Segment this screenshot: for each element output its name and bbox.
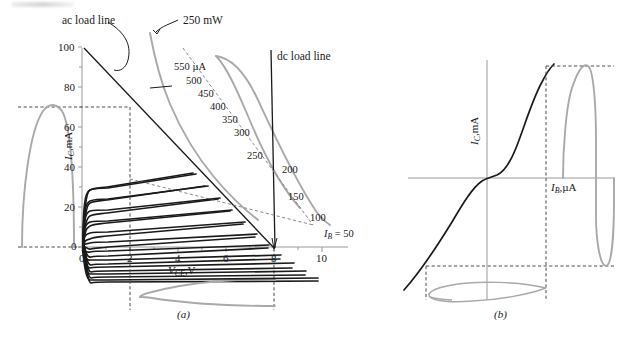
curve-label-250: 250 <box>247 150 263 161</box>
input-waveform-bottom-2 <box>472 288 546 301</box>
panel-a-ytick-0: 0 <box>71 240 77 252</box>
curve-label-350: 350 <box>222 114 238 125</box>
panel-a-xtick-4: 4 <box>175 252 181 264</box>
curve-label-200: 200 <box>282 164 298 175</box>
output-waveform-bottom-2 <box>140 297 275 306</box>
x-axis-subscript: CE <box>175 269 185 278</box>
panel-b <box>404 60 614 302</box>
curve-label-ib-50: IB = 50 <box>324 228 354 241</box>
panel-b-x-axis-unit: ,µA <box>560 181 577 193</box>
panel-a-xtick-10: 10 <box>316 252 327 264</box>
output-waveform-right <box>563 65 614 266</box>
y-axis-unit: ,mA <box>62 132 74 151</box>
panel-b-label: (b) <box>494 308 507 320</box>
y-axis-subscript: C <box>67 151 76 156</box>
power-dissipation-label: 250 mW <box>183 14 223 26</box>
panel-a-xtick-8: 8 <box>271 252 277 264</box>
panel-b-y-axis-title: IC,mA <box>468 117 482 145</box>
curve-label-500: 500 <box>186 75 202 86</box>
y-axis-symbol: I <box>62 156 74 160</box>
panel-b-x-axis-title: IB,µA <box>551 181 577 195</box>
ac-load-line-label: ac load line <box>62 14 115 26</box>
panel-a-ytick-80: 80 <box>64 81 75 93</box>
x-axis-unit: ,V <box>185 264 196 276</box>
curve-label-150: 150 <box>288 191 304 202</box>
curve-label-450: 450 <box>198 88 214 99</box>
curve-label-300: 300 <box>234 127 250 138</box>
panel-a-y-axis-title: IC,mA <box>62 132 76 160</box>
panel-b-y-axis-subscript: C <box>473 136 482 141</box>
ib-value: = 50 <box>332 228 354 239</box>
panel-b-y-axis-symbol: I <box>468 141 480 145</box>
panel-a-ytick-40: 40 <box>64 161 75 173</box>
panel-a-ytick-20: 20 <box>64 201 75 213</box>
panel-a-xtick-0: 0 <box>79 252 85 264</box>
panel-a-xtick-2: 2 <box>127 252 133 264</box>
panel-a-label: (a) <box>177 308 190 320</box>
dc-load-line-label: dc load line <box>277 50 331 62</box>
curve-label-100: 100 <box>310 212 326 223</box>
curve-label-400: 400 <box>210 101 226 112</box>
curve-label-550: 550 µA <box>174 61 206 72</box>
panel-a-x-axis-title: VCE,V <box>168 264 196 278</box>
panel-a-xtick-6: 6 <box>223 252 229 264</box>
transfer-characteristic-curve <box>404 64 554 290</box>
panel-b-y-axis-unit: ,mA <box>468 117 480 136</box>
panel-a-ytick-100: 100 <box>58 41 75 53</box>
x-axis-symbol: V <box>168 264 175 276</box>
